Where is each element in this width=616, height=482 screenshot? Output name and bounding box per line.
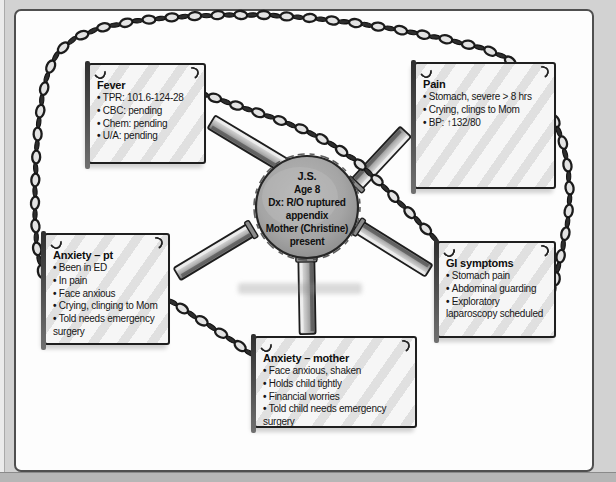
note-list: TPR: 101.6-124-28 CBC: pending Chem: pen… <box>97 92 198 143</box>
note-item: Told child needs emergency surgery <box>263 403 409 429</box>
note-box-gi-symptoms: GI symptoms Stomach pain Abdominal guard… <box>437 241 556 338</box>
note-box-anxiety-pt: Anxiety – pt Been in ED In pain Face anx… <box>44 233 170 345</box>
note-item: Holds child tightly <box>263 378 409 391</box>
note-title: Anxiety – pt <box>53 249 162 261</box>
note-title: Anxiety – mother <box>263 352 409 364</box>
note-item: CBC: pending <box>97 105 198 118</box>
note-item: Crying, clings to Mom <box>423 104 548 117</box>
patient-dx: Dx: R/O ruptured appendix <box>255 196 359 222</box>
note-item: Exploratory laparoscopy scheduled <box>446 296 548 322</box>
note-item: Chem: pending <box>97 118 198 131</box>
note-box-anxiety-mother: Anxiety – mother Face anxious, shaken Ho… <box>254 336 417 428</box>
note-title: Fever <box>97 79 198 91</box>
note-item: Abdominal guarding <box>446 283 548 296</box>
print-bleed-through <box>238 283 362 294</box>
note-item: Been in ED <box>53 262 162 275</box>
note-list: Been in ED In pain Face anxious Crying, … <box>53 262 162 339</box>
note-item: U/A: pending <box>97 130 198 143</box>
note-box-pain: Pain Stomach, severe > 8 hrs Crying, cli… <box>414 62 556 189</box>
note-item: TPR: 101.6-124-28 <box>97 92 198 105</box>
note-item: Stomach, severe > 8 hrs <box>423 91 548 104</box>
scanned-page: Fever TPR: 101.6-124-28 CBC: pending Che… <box>0 0 616 482</box>
note-item: Financial worries <box>263 391 409 404</box>
note-item: Crying, clinging to Mom <box>53 300 162 313</box>
patient-mother: Mother (Christine) present <box>255 222 359 248</box>
note-item: In pain <box>53 275 162 288</box>
note-item: Told needs emergency surgery <box>53 313 162 339</box>
note-title: GI symptoms <box>446 257 548 269</box>
note-list: Stomach, severe > 8 hrs Crying, clings t… <box>423 91 548 129</box>
note-title: Pain <box>423 78 548 90</box>
patient-circle-label: J.S. Age 8 Dx: R/O ruptured appendix Mot… <box>255 169 359 248</box>
note-item: Face anxious, shaken <box>263 365 409 378</box>
note-item: BP: ↑132/80 <box>423 117 548 130</box>
note-list: Face anxious, shaken Holds child tightly… <box>263 365 409 429</box>
patient-initials: J.S. <box>255 169 359 183</box>
note-item: Stomach pain <box>446 270 548 283</box>
note-item: Face anxious <box>53 288 162 301</box>
note-list: Stomach pain Abdominal guarding Explorat… <box>446 270 548 321</box>
patient-age: Age 8 <box>255 183 359 196</box>
note-box-fever: Fever TPR: 101.6-124-28 CBC: pending Che… <box>88 63 206 164</box>
